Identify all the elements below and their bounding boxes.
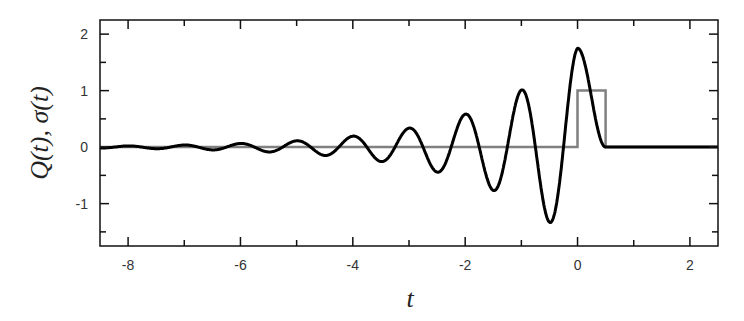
plot-frame (100, 20, 718, 246)
x-tick-label: -2 (459, 257, 472, 273)
y-axis-tick-labels: -1012 (76, 26, 89, 212)
y-axis-title: Q(t), σ(t) (25, 86, 54, 180)
x-tick-label: -8 (122, 257, 135, 273)
y-tick-label: 2 (80, 26, 88, 42)
sigma-series-line (100, 91, 718, 148)
x-axis-tick-labels: -8-6-4-202 (122, 257, 694, 273)
y-tick-label: 0 (80, 139, 88, 155)
axis-ticks (100, 20, 718, 246)
x-tick-label: 0 (574, 257, 582, 273)
y-tick-label: 1 (80, 83, 88, 99)
x-tick-label: -4 (347, 257, 360, 273)
q-series-line (100, 48, 718, 222)
y-tick-label: -1 (76, 196, 89, 212)
x-tick-label: -6 (234, 257, 247, 273)
plot-area (100, 48, 718, 222)
chart: -8-6-4-202 -1012 t Q(t), σ(t) (0, 0, 744, 321)
x-tick-label: 2 (686, 257, 694, 273)
x-axis-title: t (406, 284, 414, 313)
